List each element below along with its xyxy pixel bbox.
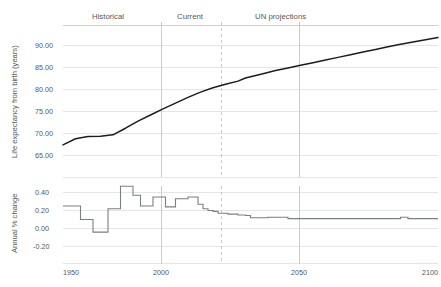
ytick-lower-000: 0.00 (35, 224, 49, 233)
ytick-upper-70: 70.00 (35, 129, 53, 138)
xtick-2100: 2100 (422, 268, 438, 277)
xtick-1950: 1950 (63, 268, 79, 277)
ytick-lower-040: 0.40 (35, 188, 49, 197)
chart-figure: Historical Current UN projections 90.00 … (0, 0, 441, 287)
ytick-upper-90: 90.00 (35, 41, 53, 50)
upper-panel-gridlines (63, 46, 438, 178)
series-line-life-expectancy (63, 38, 438, 145)
ytick-lower-neg020: -0.20 (33, 242, 49, 251)
ytick-upper-80: 80.00 (35, 85, 53, 94)
lower-panel-gridlines (63, 193, 438, 264)
ytick-upper-75: 75.00 (35, 107, 53, 116)
region-label-historical: Historical (92, 12, 124, 21)
xtick-2000: 2000 (153, 268, 169, 277)
region-label-current: Current (177, 12, 204, 21)
axis-title-life-expectancy: Life expectancy from birth (years) (10, 45, 19, 158)
region-label-un-projections: UN projections (255, 12, 306, 21)
axis-title-annual-pct-change: Annual % change (10, 193, 19, 253)
chart-canvas: Historical Current UN projections 90.00 … (0, 0, 441, 287)
series-line-annual-pct-change (63, 186, 438, 232)
ytick-upper-65: 65.00 (35, 151, 53, 160)
ytick-lower-020: 0.20 (35, 206, 49, 215)
xtick-2050: 2050 (291, 268, 307, 277)
ytick-upper-85: 85.00 (35, 63, 53, 72)
